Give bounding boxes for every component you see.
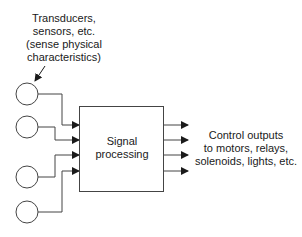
input-wire-2 <box>38 127 79 140</box>
sensor-label-line: characteristics) <box>18 51 110 64</box>
output-label-line: solenoids, lights, etc. <box>190 155 302 168</box>
sensor-4-icon <box>16 201 38 223</box>
input-wire-1 <box>38 94 79 125</box>
processor-label-line: Signal <box>80 135 164 148</box>
label-pointer-arrow <box>35 66 45 81</box>
sensor-label-line: (sense physical <box>18 38 110 51</box>
input-wire-3 <box>38 155 79 177</box>
sensor-label-line: Transducers, <box>18 12 110 25</box>
sensor-2-icon <box>16 116 38 138</box>
sensor-label-line: sensors, etc. <box>18 25 110 38</box>
output-label: Control outputs to motors, relays, solen… <box>190 129 302 168</box>
output-label-line: Control outputs <box>190 129 302 142</box>
sensor-3-icon <box>16 166 38 188</box>
sensor-1-icon <box>16 83 38 105</box>
output-label-line: to motors, relays, <box>190 142 302 155</box>
processor-label: Signal processing <box>80 135 164 161</box>
processor-label-line: processing <box>80 148 164 161</box>
sensor-label: Transducers, sensors, etc. (sense physic… <box>18 12 110 64</box>
